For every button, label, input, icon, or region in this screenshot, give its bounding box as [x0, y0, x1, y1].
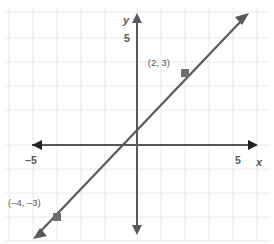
x-tick-5: 5 — [235, 154, 241, 166]
data-point-marker[interactable] — [181, 69, 189, 77]
x-axis-label: x — [255, 156, 263, 168]
data-point-marker[interactable] — [53, 213, 61, 221]
y-tick-5: 5 — [124, 32, 130, 44]
point-label-2-3: (2, 3) — [148, 57, 170, 68]
y-axis-label: y — [122, 14, 130, 26]
plotted-line — [33, 13, 249, 239]
coordinate-graph: y x 5 –5 5 (2, 3) (–4, –3) — [0, 0, 274, 244]
graph-canvas: y x 5 –5 5 (2, 3) (–4, –3) — [0, 0, 274, 244]
point-label-neg4-neg3: (–4, –3) — [8, 197, 41, 208]
x-tick-negative-5: –5 — [25, 154, 37, 166]
x-axis — [32, 140, 258, 150]
y-axis — [132, 13, 142, 235]
